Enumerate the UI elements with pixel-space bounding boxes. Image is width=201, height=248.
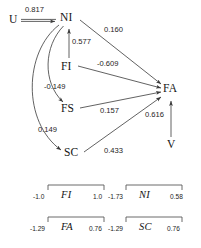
scale-ni-name: NI [139,189,150,200]
scale-sc-min: -1.29 [108,225,123,232]
scale-ni-max: 0.58 [170,193,183,200]
edge-label-ni-fs: -0.149 [44,83,66,91]
node-fs: FS [61,103,74,115]
path-diagram-figure: U NI FI FS SC FA V 0.817 0.160 0.577 -0.… [0,0,201,248]
scale-fi-max: 1.0 [93,193,102,200]
node-fa: FA [163,83,177,95]
scale-ni-min: -1.73 [108,193,123,200]
scale-fi-min: -1.0 [33,193,44,200]
bracket-ni [126,185,182,190]
node-u: U [9,14,18,26]
scale-fa-max: 0.76 [89,225,102,232]
scale-sc-name: SC [139,221,152,232]
edge-label-ni-sc: 0.149 [38,126,57,134]
node-v: V [167,139,176,151]
edge-label-fi-ni: 0.577 [72,38,91,46]
edge-label-v-fa: 0.616 [145,111,164,119]
bracket-fi [48,185,104,190]
node-sc: SC [64,147,78,159]
scale-fi-name: FI [61,189,72,200]
node-fi: FI [61,61,72,73]
scale-sc-max: 0.76 [167,225,180,232]
scale-fa-name: FA [61,221,73,232]
edge-label-ni-fa: 0.160 [104,26,123,34]
bracket-sc [126,217,182,222]
scale-brackets-layer [0,0,201,248]
edge-label-u-ni: 0.817 [25,6,44,14]
scale-fa-min: -1.29 [30,225,45,232]
bracket-fa [48,217,104,222]
node-ni: NI [60,12,73,24]
edge-label-fi-fa: -0.609 [97,60,119,68]
edge-label-sc-fa: 0.433 [104,147,123,155]
edge-label-fs-fa: 0.157 [100,107,119,115]
